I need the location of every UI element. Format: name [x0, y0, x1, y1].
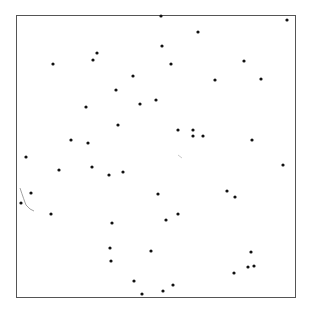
dot	[242, 59, 245, 62]
dot	[252, 264, 255, 267]
dot	[90, 165, 93, 168]
dot	[131, 74, 134, 77]
dot	[281, 163, 284, 166]
dot	[114, 88, 117, 91]
pencil-stroke	[178, 155, 182, 158]
dot	[201, 134, 204, 137]
dot	[249, 250, 252, 253]
dot	[285, 18, 288, 21]
dot	[19, 201, 22, 204]
dot	[196, 30, 199, 33]
dot	[156, 192, 159, 195]
dot	[121, 170, 124, 173]
dot	[51, 62, 54, 65]
dot	[95, 51, 98, 54]
dot	[259, 77, 262, 80]
dot	[116, 123, 119, 126]
dot	[91, 58, 94, 61]
dot	[69, 138, 72, 141]
dot	[132, 279, 135, 282]
dot	[138, 102, 141, 105]
dot	[232, 271, 235, 274]
dot	[107, 173, 110, 176]
dot	[225, 189, 228, 192]
dot	[154, 98, 157, 101]
dot	[160, 44, 163, 47]
dot	[149, 249, 152, 252]
dot	[24, 155, 27, 158]
dot	[109, 259, 112, 262]
dot	[213, 78, 216, 81]
dot	[191, 128, 194, 131]
dot	[29, 191, 32, 194]
dot	[140, 292, 143, 295]
dot-canvas	[0, 0, 312, 313]
dot	[233, 195, 236, 198]
dot	[110, 221, 113, 224]
dot	[161, 289, 164, 292]
dot	[49, 212, 52, 215]
dot	[169, 62, 172, 65]
dot	[108, 246, 111, 249]
dot	[86, 141, 89, 144]
dot	[250, 138, 253, 141]
dot	[246, 265, 249, 268]
dot	[191, 134, 194, 137]
dot	[164, 218, 167, 221]
pencil-stroke	[20, 188, 34, 211]
dot	[176, 212, 179, 215]
dot	[176, 128, 179, 131]
dot	[159, 14, 162, 17]
dot	[84, 105, 87, 108]
dot	[57, 168, 60, 171]
dot	[171, 283, 174, 286]
